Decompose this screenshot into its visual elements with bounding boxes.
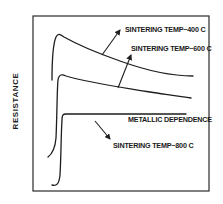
label-800c: SINTERING TEMP~800 C <box>113 141 193 150</box>
plot-frame <box>33 16 209 191</box>
arrow-600c <box>118 55 131 88</box>
resistance-chart: RESISTANCE SINTERING TEMP~400 C SINTERIN… <box>0 0 223 204</box>
label-400c: SINTERING TEMP~400 C <box>125 25 205 34</box>
curve-400c <box>52 34 193 80</box>
arrow-400c <box>102 30 120 55</box>
y-axis-label: RESISTANCE <box>11 72 20 129</box>
label-metallic-dependence: METALLIC DEPENDENCE <box>128 115 212 124</box>
arrow-800c <box>95 121 110 139</box>
label-600c: SINTERING TEMP~600 C <box>131 44 211 53</box>
